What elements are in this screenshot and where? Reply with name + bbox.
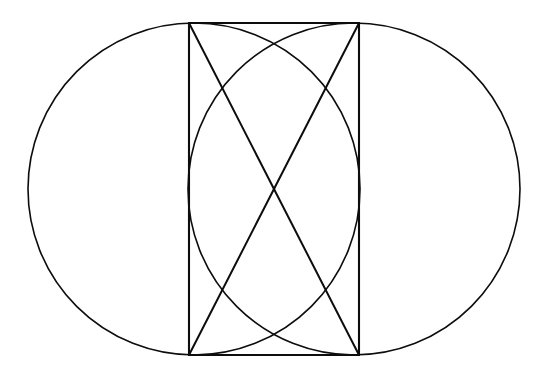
figure-background — [0, 0, 542, 380]
geometry-drawing — [0, 0, 542, 380]
geometric-figure-canvas — [0, 0, 542, 380]
